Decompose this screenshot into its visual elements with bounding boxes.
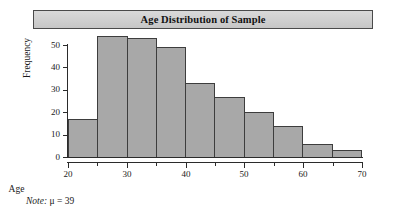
x-axis-minor-tick — [156, 163, 157, 166]
x-axis-title: Age — [0, 184, 397, 194]
histogram-bar — [244, 112, 274, 157]
x-axis-title-text: Age — [9, 184, 25, 194]
y-axis-line — [67, 44, 68, 158]
x-axis-tick-label: 30 — [115, 170, 139, 179]
x-axis-minor-tick — [333, 163, 334, 166]
x-axis-minor-tick — [97, 163, 98, 166]
x-axis-minor-tick — [274, 163, 275, 166]
y-axis-tick — [63, 45, 67, 46]
plot-wrapper: 01020304050 203040506070 Frequency Age — [0, 0, 397, 221]
plot-area — [68, 45, 362, 157]
histogram-bar — [302, 144, 332, 157]
x-axis-tick — [303, 163, 304, 168]
histogram-bars — [68, 45, 362, 157]
y-axis-tick — [63, 112, 67, 113]
x-axis-tick-label: 60 — [291, 170, 315, 179]
histogram-bar — [185, 83, 215, 157]
figure-histogram: Age Distribution of Sample 01020304050 2… — [0, 0, 397, 221]
x-axis-tick — [362, 163, 363, 168]
y-axis-tick — [63, 157, 67, 158]
x-axis-tick — [127, 163, 128, 168]
histogram-bar — [214, 97, 244, 157]
x-axis-tick-label: 40 — [174, 170, 198, 179]
y-axis-tick-label: 0 — [40, 153, 60, 162]
histogram-bar — [68, 119, 98, 157]
y-axis-tick-label: 50 — [40, 41, 60, 50]
y-axis-title: Frequency — [22, 38, 32, 78]
histogram-bar — [127, 38, 157, 157]
chart-note-label: Note: — [26, 196, 47, 206]
x-axis-minor-tick — [215, 163, 216, 166]
x-axis-tick — [186, 163, 187, 168]
y-axis-tick — [63, 135, 67, 136]
x-axis-tick-label: 20 — [56, 170, 80, 179]
histogram-bar — [273, 126, 303, 157]
x-axis-tick — [68, 163, 69, 168]
chart-note: Note: μ = 39 — [26, 196, 74, 206]
y-axis-tick-label: 10 — [40, 130, 60, 139]
y-axis-tick-label: 40 — [40, 63, 60, 72]
chart-note-value: μ = 39 — [49, 196, 74, 206]
histogram-bar — [97, 36, 127, 157]
y-axis-tick — [63, 67, 67, 68]
y-axis-tick-label: 20 — [40, 108, 60, 117]
y-axis-tick-label: 30 — [40, 85, 60, 94]
x-axis-tick — [244, 163, 245, 168]
x-axis-tick-label: 70 — [350, 170, 374, 179]
histogram-bar — [156, 47, 186, 157]
y-axis-tick — [63, 90, 67, 91]
histogram-bar — [332, 150, 362, 157]
plot-baseline — [67, 157, 363, 158]
x-axis-tick-label: 50 — [232, 170, 256, 179]
